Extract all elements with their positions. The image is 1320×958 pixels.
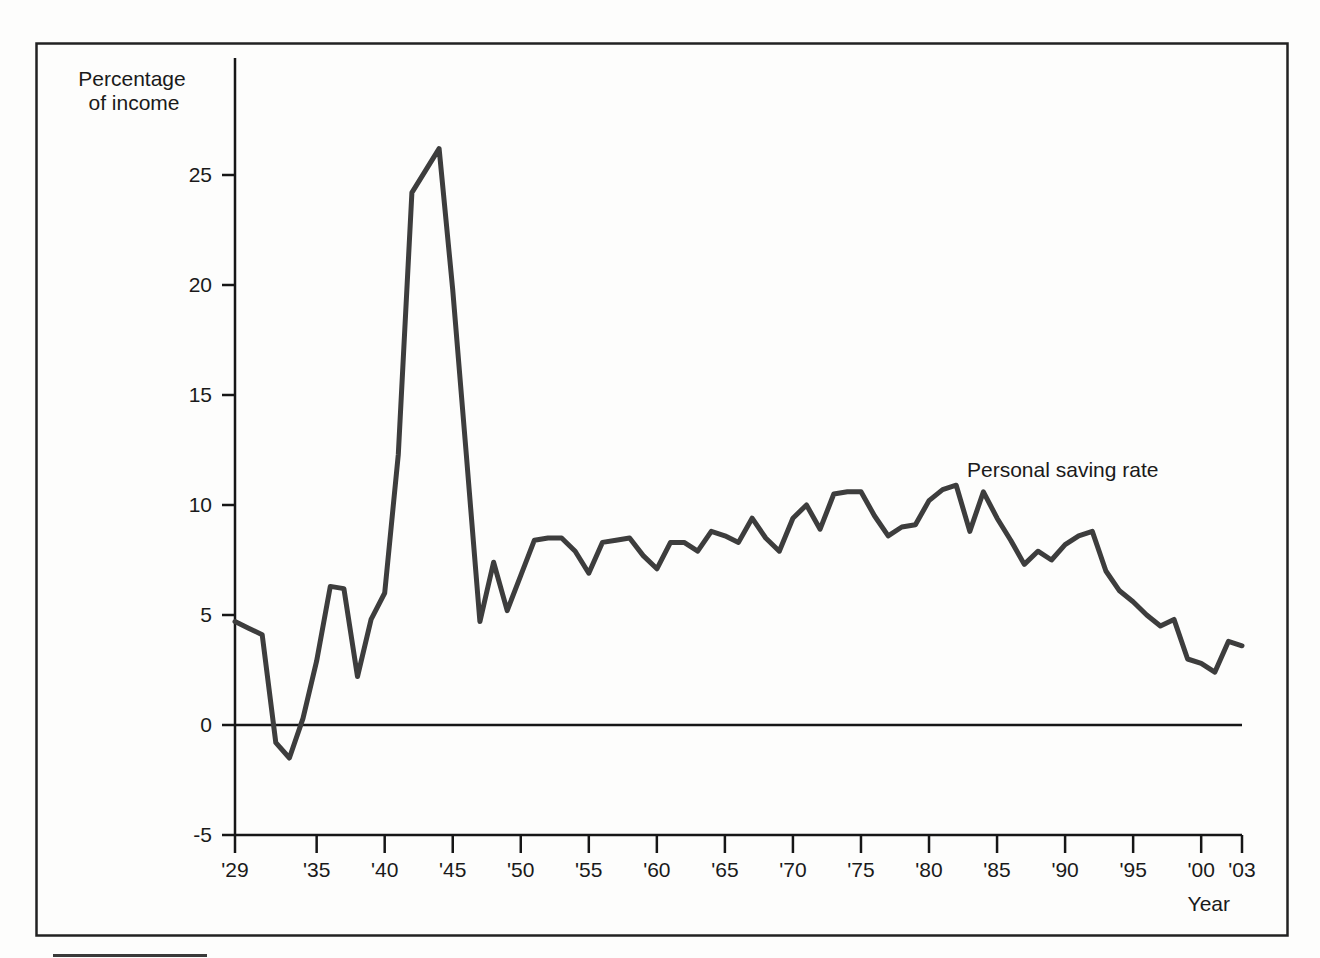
y-tick-label: 5 (200, 603, 212, 626)
y-axis-title-line1: Percentage (78, 67, 185, 90)
x-tick-label: '60 (643, 858, 670, 881)
x-tick-label: '45 (439, 858, 466, 881)
x-tick-label: '35 (303, 858, 330, 881)
x-tick-label: '00 (1187, 858, 1214, 881)
y-tick-label: 15 (189, 383, 212, 406)
x-tick-label: '90 (1051, 858, 1078, 881)
x-tick-label: '40 (371, 858, 398, 881)
y-tick-label: 20 (189, 273, 212, 296)
y-axis-title-line2: of income (88, 91, 179, 114)
series-annotation-label: Personal saving rate (967, 458, 1158, 481)
y-tick-label: 10 (189, 493, 212, 516)
y-tick-label: 0 (200, 713, 212, 736)
figure-frame (37, 44, 1288, 936)
personal-saving-rate-chart: Percentage of income 2520151050-5'29'35'… (0, 0, 1320, 958)
x-tick-label: '50 (507, 858, 534, 881)
x-tick-label: '95 (1119, 858, 1146, 881)
y-tick-label: -5 (193, 823, 212, 846)
x-axis-title: Year (1188, 892, 1230, 915)
x-tick-label: '03 (1228, 858, 1255, 881)
x-tick-label: '75 (847, 858, 874, 881)
y-tick-label: 25 (189, 163, 212, 186)
x-tick-label: '85 (983, 858, 1010, 881)
x-tick-label: '70 (779, 858, 806, 881)
x-tick-label: '29 (221, 858, 248, 881)
x-tick-label: '80 (915, 858, 942, 881)
x-tick-label: '65 (711, 858, 738, 881)
x-tick-label: '55 (575, 858, 602, 881)
scanned-figure-page: Percentage of income 2520151050-5'29'35'… (0, 0, 1320, 958)
